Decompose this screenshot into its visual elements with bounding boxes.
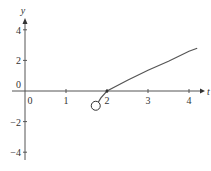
y-tick-label: −4 [10,147,21,158]
y-tick-label: −2 [10,117,21,128]
x-tick-label: 1 [64,95,69,106]
y-tick-label: 2 [16,55,21,66]
y-axis-arrow-icon [23,18,28,24]
y-tick-label: 4 [16,25,21,36]
x-tick-label: 3 [146,95,151,106]
x-axis-arrow-icon [200,89,205,94]
y-axis-label: y [20,5,26,16]
y-tick-label: 0 [16,79,21,90]
x-tick-label: 2 [105,95,110,106]
x-tick-label: 0 [28,95,33,106]
chart: ty01234420−2−4 [0,0,211,171]
point-dot [106,90,109,93]
open-circle-icon [91,101,100,110]
x-axis-label: t [207,86,210,97]
x-tick-label: 4 [187,95,192,106]
